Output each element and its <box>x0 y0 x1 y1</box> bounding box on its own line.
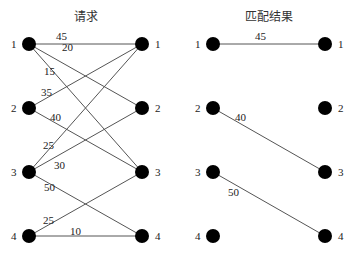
matching-result-title: 匹配结果 <box>245 10 293 24</box>
result-right-node-label: 3 <box>338 166 344 178</box>
request-right-node-label: 2 <box>155 102 161 114</box>
request-left-node-label: 1 <box>11 38 17 50</box>
request-edge-weight: 25 <box>43 214 55 226</box>
request-left-node <box>22 37 36 51</box>
result-edge <box>213 172 325 236</box>
result-left-node-label: 4 <box>195 230 201 242</box>
result-right-node <box>318 37 332 51</box>
request-edge-weight: 15 <box>44 65 56 77</box>
request-right-node <box>135 165 149 179</box>
request-left-node-label: 3 <box>11 166 17 178</box>
result-left-node-label: 2 <box>195 102 201 114</box>
request-edge-weight: 50 <box>44 181 56 193</box>
result-edge-weight: 40 <box>235 111 247 123</box>
request-left-node <box>22 229 36 243</box>
matching-result-graph: 匹配结果 45405012341234 <box>195 10 344 243</box>
result-right-node-label: 2 <box>338 102 344 114</box>
result-right-node <box>318 229 332 243</box>
request-graph-title: 请求 <box>74 10 98 24</box>
result-edge <box>213 108 325 172</box>
request-right-node <box>135 229 149 243</box>
result-right-node-label: 4 <box>338 230 344 242</box>
result-right-node <box>318 165 332 179</box>
bipartite-matching-diagram: 请求 4520153540253050251012341234 匹配结果 454… <box>0 0 356 259</box>
request-left-node-label: 2 <box>11 102 17 114</box>
request-edge-weight: 35 <box>41 86 53 98</box>
request-right-node-label: 1 <box>155 38 161 50</box>
request-left-node-label: 4 <box>11 230 17 242</box>
result-left-node <box>206 37 220 51</box>
result-left-node <box>206 229 220 243</box>
request-right-node <box>135 101 149 115</box>
request-edge-weight: 10 <box>70 225 82 237</box>
result-left-node-label: 1 <box>195 38 201 50</box>
result-right-node <box>318 101 332 115</box>
request-left-node <box>22 101 36 115</box>
result-edge-weight: 50 <box>228 186 240 198</box>
request-edge-weight: 25 <box>43 139 55 151</box>
request-right-node <box>135 37 149 51</box>
request-right-node-label: 3 <box>155 166 161 178</box>
request-right-node-label: 4 <box>155 230 161 242</box>
request-edge-weight: 30 <box>54 159 66 171</box>
result-edge-weight: 45 <box>255 30 267 42</box>
result-left-node <box>206 165 220 179</box>
result-left-node-label: 3 <box>195 166 201 178</box>
request-graph: 请求 4520153540253050251012341234 <box>11 10 161 243</box>
request-edge-weight: 20 <box>62 41 74 53</box>
request-edge-weight: 40 <box>50 111 62 123</box>
result-left-node <box>206 101 220 115</box>
result-right-node-label: 1 <box>338 38 344 50</box>
request-left-node <box>22 165 36 179</box>
